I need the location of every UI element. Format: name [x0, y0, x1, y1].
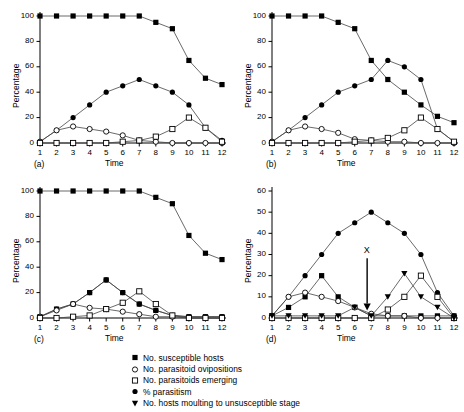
data-point [319, 126, 324, 131]
series-line [272, 126, 454, 143]
legend-item: No. parasitoids emerging [130, 375, 450, 386]
data-point [352, 139, 357, 144]
data-point [186, 140, 191, 145]
legend-label: % parasitism [143, 387, 192, 397]
data-point [352, 83, 357, 88]
series-line [40, 280, 222, 317]
data-point [418, 273, 423, 278]
filled-circle-glyph [132, 389, 137, 394]
x-tick-label: 9 [164, 148, 180, 157]
open-circle-icon [130, 364, 143, 375]
data-point [87, 188, 92, 193]
data-point [153, 195, 158, 200]
data-point [70, 188, 75, 193]
data-point [137, 188, 142, 193]
data-point [435, 294, 440, 299]
data-point [54, 140, 59, 145]
panel-d: 0102030405060123456789101112PercentageTi… [232, 175, 464, 355]
open-circle-glyph [132, 366, 137, 371]
data-point [369, 58, 374, 63]
x-tick-label: 3 [65, 323, 81, 332]
data-point [203, 140, 208, 145]
y-tick-label: 20 [232, 112, 266, 121]
data-point [302, 140, 307, 145]
data-point [37, 315, 42, 320]
data-point [54, 188, 59, 193]
y-ticks [269, 16, 273, 143]
data-point [186, 233, 191, 238]
data-point [170, 90, 175, 95]
data-point [352, 26, 357, 31]
filled-triangle-down-icon [130, 398, 143, 409]
data-point [352, 220, 357, 225]
data-point [153, 314, 158, 319]
x-tick-label: 8 [148, 148, 164, 157]
data-point [319, 252, 324, 257]
data-point [186, 102, 191, 107]
y-ticks [37, 191, 41, 318]
data-point [385, 313, 390, 318]
series-0 [269, 13, 456, 125]
panel-b: 020406080100123456789101112PercentageTim… [232, 0, 464, 180]
legend-item: No. hosts moulting to unsusceptible stag… [130, 398, 450, 409]
y-axis-label: Percentage [243, 238, 253, 282]
series-1 [269, 58, 456, 144]
series-line [40, 304, 222, 318]
x-tick-label: 1 [32, 323, 48, 332]
x-tick-label: 9 [396, 323, 412, 332]
data-point [137, 77, 142, 82]
data-point [203, 125, 208, 130]
y-tick-label: 50 [232, 207, 266, 216]
filled-circle-icon [130, 386, 143, 397]
data-point [153, 308, 158, 313]
data-point [104, 129, 109, 134]
x-tick-label: 3 [65, 148, 81, 157]
data-point [70, 115, 75, 120]
data-point [70, 13, 75, 18]
x-tick-label: 7 [363, 148, 379, 157]
data-point [170, 26, 175, 31]
filled-triangle-down-glyph [132, 401, 138, 407]
legend-label: No. susceptible hosts [143, 353, 224, 363]
x-axis-label: Time [337, 333, 356, 343]
axes [272, 12, 458, 143]
data-point [286, 305, 291, 310]
data-point [54, 308, 59, 313]
series-line [40, 118, 222, 143]
x-tick-label: 10 [181, 323, 197, 332]
data-point [54, 128, 59, 133]
figure-legend: No. susceptible hostsNo. parasitoid ovip… [130, 352, 450, 409]
x-tick-label: 4 [314, 323, 330, 332]
data-point [402, 64, 407, 69]
data-point [120, 13, 125, 18]
data-point [37, 13, 42, 18]
y-tick-label: 0 [232, 138, 266, 147]
data-point [451, 139, 456, 144]
data-point [418, 294, 424, 300]
y-tick-label: 100 [0, 11, 34, 20]
y-tick-label: 100 [0, 186, 34, 195]
data-point [336, 140, 341, 145]
annotation-label: X [364, 245, 370, 255]
x-tick-label: 11 [429, 323, 445, 332]
x-tick-label: 5 [330, 323, 346, 332]
x-tick-label: 2 [49, 148, 65, 157]
x-tick-label: 1 [264, 323, 280, 332]
data-point [435, 126, 440, 131]
legend-label: No. parasitoids emerging [143, 375, 237, 385]
data-point [219, 139, 224, 144]
x-axis-label: Time [105, 158, 124, 168]
data-point [104, 307, 109, 312]
y-tick-label: 60 [232, 186, 266, 195]
panel-label: (a) [34, 159, 44, 169]
data-point [186, 315, 191, 320]
x-tick-label: 5 [98, 323, 114, 332]
panel-c: 020406080100123456789101112PercentageTim… [0, 175, 232, 355]
data-point [37, 140, 42, 145]
y-tick-label: 0 [0, 313, 34, 322]
data-point [87, 126, 92, 131]
data-point [402, 128, 407, 133]
x-ticks [272, 143, 454, 147]
data-point [87, 140, 92, 145]
x-tick-label: 6 [347, 148, 363, 157]
